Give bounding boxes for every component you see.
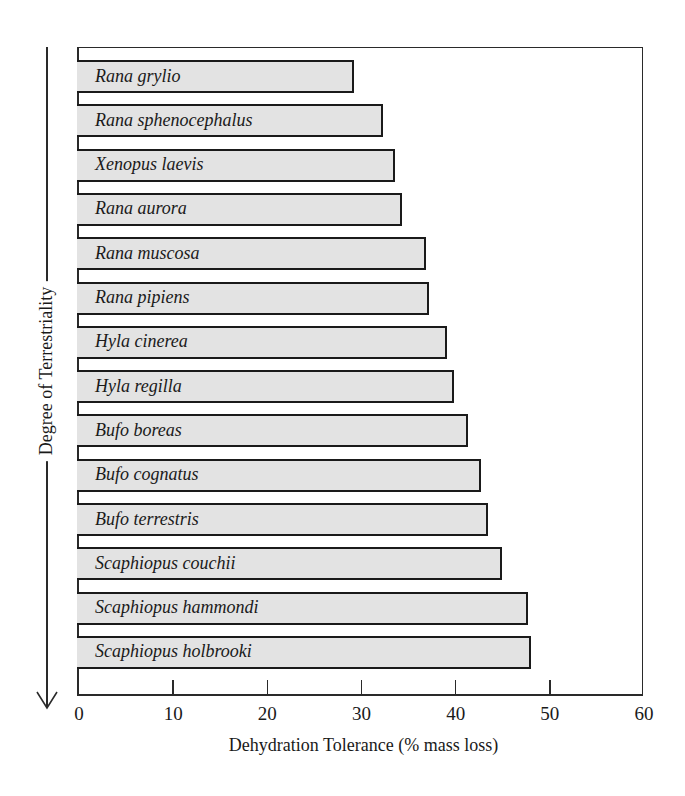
bar-label: Hyla cinerea — [95, 331, 188, 352]
x-tick-label: 20 — [258, 703, 277, 725]
x-tick-label: 10 — [164, 703, 183, 725]
x-axis-title: Dehydration Tolerance (% mass loss) — [0, 735, 685, 756]
bar: Bufo boreas — [77, 414, 468, 447]
x-tick — [549, 680, 551, 696]
bar-label: Rana muscosa — [95, 243, 200, 264]
x-tick — [455, 680, 457, 696]
x-tick-label: 30 — [352, 703, 371, 725]
bar: Rana muscosa — [77, 237, 426, 270]
x-tick — [361, 680, 363, 696]
bar-chart: Rana grylioRana sphenocephalusXenopus la… — [0, 0, 685, 796]
x-tick-label: 50 — [540, 703, 559, 725]
bar-label: Rana grylio — [95, 66, 181, 87]
bar-label: Rana sphenocephalus — [95, 110, 252, 131]
bar-label: Bufo terrestris — [95, 509, 199, 530]
bar-label: Hyla regilla — [95, 376, 182, 397]
x-tick — [267, 680, 269, 696]
bar-label: Rana aurora — [95, 198, 187, 219]
bar-label: Scaphiopus couchii — [95, 553, 235, 574]
bar: Hyla cinerea — [77, 326, 447, 359]
bar: Rana pipiens — [77, 282, 429, 315]
x-tick-label: 60 — [635, 703, 654, 725]
bar: Xenopus laevis — [77, 149, 395, 182]
y-axis-title: Degree of Terrestriality — [36, 281, 57, 461]
bar: Scaphiopus hammondi — [77, 592, 528, 625]
bar: Bufo terrestris — [77, 503, 488, 536]
x-tick — [172, 680, 174, 696]
bar: Rana aurora — [77, 193, 402, 226]
bar-label: Bufo boreas — [95, 420, 182, 441]
bar-label: Bufo cognatus — [95, 464, 199, 485]
bar: Bufo cognatus — [77, 459, 481, 492]
bar: Hyla regilla — [77, 370, 454, 403]
x-tick-label: 0 — [74, 703, 84, 725]
bar: Rana grylio — [77, 60, 354, 93]
bar-label: Scaphiopus hammondi — [95, 597, 259, 618]
x-tick-label: 40 — [446, 703, 465, 725]
bar-label: Xenopus laevis — [95, 154, 203, 175]
bar: Rana sphenocephalus — [77, 104, 383, 137]
bar-label: Rana pipiens — [95, 287, 190, 308]
bar: Scaphiopus holbrooki — [77, 636, 531, 669]
bar-label: Scaphiopus holbrooki — [95, 641, 252, 662]
arrow-down-icon — [35, 690, 59, 710]
bar: Scaphiopus couchii — [77, 547, 502, 580]
